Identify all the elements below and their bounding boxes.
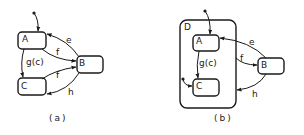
svg-text:f: f xyxy=(240,53,244,63)
svg-text:g(c): g(c) xyxy=(26,57,44,67)
diagram-b: D A C B g(c) e f h xyxy=(180,9,284,123)
caption-a: (a) xyxy=(49,113,68,123)
caption-b: (b) xyxy=(214,113,233,123)
state-b[interactable]: B xyxy=(77,56,103,73)
svg-text:C: C xyxy=(196,81,202,91)
svg-text:h: h xyxy=(252,89,258,99)
transition-h xyxy=(237,74,266,90)
svg-text:f: f xyxy=(56,70,60,80)
statechart-figure: A B C e f g(c) f h (a) D xyxy=(0,0,304,135)
state-c[interactable]: C xyxy=(193,79,219,96)
default-transition-to-a xyxy=(34,13,38,31)
transition-e xyxy=(47,34,79,57)
svg-text:h: h xyxy=(68,87,74,97)
state-a[interactable]: A xyxy=(193,35,219,51)
svg-text:C: C xyxy=(21,81,27,91)
state-a[interactable]: A xyxy=(18,32,46,49)
transition-h xyxy=(47,73,79,94)
svg-text:g(c): g(c) xyxy=(199,58,217,68)
svg-text:B: B xyxy=(79,58,85,68)
default-transition-to-a xyxy=(205,11,210,34)
svg-text:e: e xyxy=(66,35,72,45)
svg-text:D: D xyxy=(184,22,191,32)
transition-g-c xyxy=(22,49,24,77)
diagram-a: A B C e f g(c) f h (a) xyxy=(18,11,103,123)
svg-text:A: A xyxy=(196,36,203,46)
svg-text:A: A xyxy=(22,34,29,44)
svg-text:f: f xyxy=(56,47,60,57)
svg-text:B: B xyxy=(261,60,267,70)
default-transition-to-c xyxy=(183,79,192,86)
state-c[interactable]: C xyxy=(18,78,46,95)
svg-text:e: e xyxy=(249,37,255,47)
state-b[interactable]: B xyxy=(258,58,284,74)
